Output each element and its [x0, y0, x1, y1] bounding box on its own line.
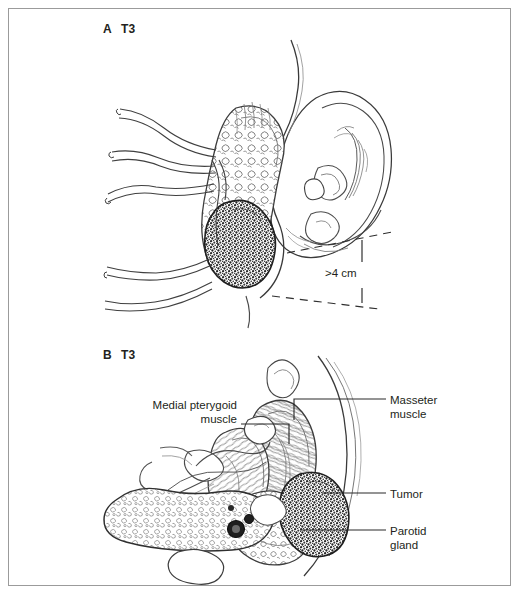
- panel-b-label: BT3: [103, 348, 136, 362]
- vertebral-body-axial: [104, 488, 286, 584]
- medical-illustration: [0, 0, 521, 596]
- panel-b-artwork: [104, 356, 386, 584]
- panel-a-label: AT3: [103, 22, 136, 36]
- size-measurement-label: >4 cm: [325, 266, 357, 280]
- annotation-medial-pterygoid-muscle: Medial pterygoid muscle: [106, 398, 237, 426]
- ear-illustration: [271, 91, 392, 257]
- annotation-tumor: Tumor: [390, 487, 500, 501]
- tumor-lateral: [205, 200, 276, 288]
- annotation-masseter-muscle: Masseter muscle: [390, 393, 500, 421]
- panel-b-stage: T3: [121, 348, 136, 362]
- figure-root: AT3 BT3 >4 cm Medial pterygoid muscle Ma…: [0, 0, 521, 596]
- panel-a-artwork: [104, 40, 392, 328]
- size-measurement-bracket: [356, 240, 368, 303]
- annotation-parotid-gland: Parotid gland: [390, 524, 500, 552]
- panel-a-letter: A: [103, 22, 112, 36]
- panel-b-letter: B: [103, 348, 112, 362]
- ear-axial: [267, 360, 299, 398]
- panel-a-stage: T3: [121, 22, 136, 36]
